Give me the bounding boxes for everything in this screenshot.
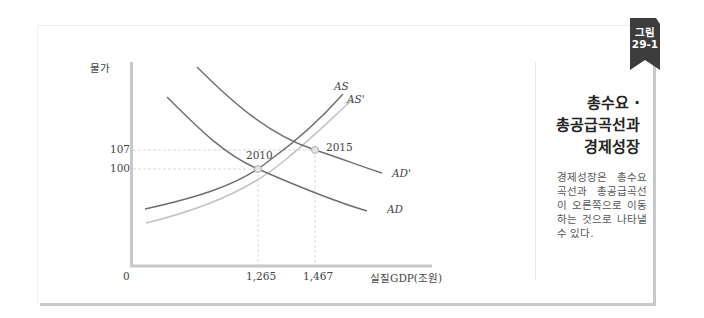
curve-label-as-prime: AS' [347, 93, 365, 105]
curve-label-ad-prime: AD' [392, 167, 411, 179]
y-tick-100: 100 [110, 162, 130, 174]
curve-label-ad: AD [387, 203, 403, 215]
point-label-2015: 2015 [326, 141, 353, 153]
y-tick-107: 107 [110, 143, 130, 155]
x-tick-1467: 1,467 [303, 270, 333, 282]
figure-title: 총수요 · 총공급곡선과 경제성장 [540, 92, 640, 158]
figure-badge-text: 그림 29-1 [630, 26, 660, 50]
equilibrium-point-2010 [255, 166, 262, 173]
badge-line-2: 29-1 [630, 38, 660, 50]
equilibrium-point-2015 [312, 147, 319, 154]
chart-plot [0, 0, 704, 318]
point-label-2010: 2010 [246, 149, 273, 161]
x-axis-label: 실질GDP(조원) [370, 270, 442, 285]
panel-divider [535, 62, 536, 280]
x-tick-1265: 1,265 [246, 270, 276, 282]
as-prime-curve [146, 100, 352, 223]
title-line-1: 총수요 · [540, 92, 640, 114]
y-axis-label: 물가 [90, 60, 110, 75]
curve-label-as: AS [334, 80, 349, 92]
figure-description: 경제성장은 총수요곡선과 총공급곡선이 오른쪽으로 이동하는 것으로 나타낼 수… [557, 170, 647, 240]
title-line-2: 총공급곡선과 [540, 114, 640, 136]
badge-line-1: 그림 [630, 26, 660, 38]
title-line-3: 경제성장 [540, 136, 640, 158]
origin-label: 0 [123, 270, 130, 282]
